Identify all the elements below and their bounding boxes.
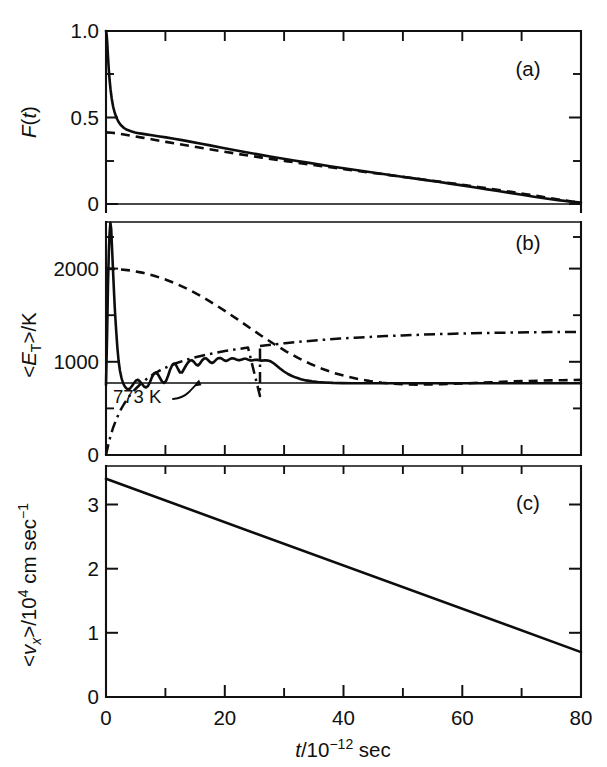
panel-a-frame xyxy=(106,31,581,212)
panel-c-x-ticks xyxy=(106,466,581,697)
svg-text:F(t): F(t) xyxy=(17,106,40,138)
panel-b-annotation-arrow xyxy=(173,382,198,399)
panel-c-ytick-label-2: 2 xyxy=(88,557,99,580)
panel-c-frame xyxy=(106,466,581,697)
panel-a-x-ticks xyxy=(165,31,521,41)
xtick-label-80: 80 xyxy=(570,706,593,729)
panel-b-annotation-label: 773 K xyxy=(113,386,162,407)
panel-c-y-ticks xyxy=(106,505,581,698)
panel-c-ytick-label-3: 3 xyxy=(88,493,99,516)
x-axis-title: t/10−12 sec xyxy=(295,736,391,761)
panel-b-frame xyxy=(106,222,581,455)
panel-c: 3 2 1 0 <vx>/104 cm sec−1 (c) xyxy=(15,466,581,708)
xtick-label-60: 60 xyxy=(451,706,474,729)
panel-c-tag: (c) xyxy=(516,491,540,514)
panel-b-curve-solid xyxy=(106,223,581,390)
multi-panel-plot: 1.0 0.5 0 F(t) (a) xyxy=(0,0,607,767)
panel-b-x-ticks xyxy=(165,445,521,455)
panel-a: 1.0 0.5 0 F(t) (a) xyxy=(17,19,581,215)
panel-b-curve-dashdot xyxy=(106,332,581,455)
panel-b-tag: (b) xyxy=(515,231,540,254)
panel-c-curve-solid xyxy=(106,479,581,652)
panel-a-ytick-label-0.5: 0.5 xyxy=(71,106,100,129)
panel-a-ytick-label-1: 1.0 xyxy=(71,19,100,42)
panel-b-ytick-label-2000: 2000 xyxy=(53,257,99,280)
svg-text:t/10−12 sec: t/10−12 sec xyxy=(295,736,391,761)
xtick-label-40: 40 xyxy=(332,706,355,729)
figure-container: 1.0 0.5 0 F(t) (a) xyxy=(0,0,607,767)
panel-a-ytick-label-0: 0 xyxy=(88,192,99,215)
panel-b-y-axis-title: <ET>/K xyxy=(17,312,44,378)
panel-a-tag: (a) xyxy=(515,57,540,80)
panel-a-curve-solid xyxy=(106,31,581,203)
x-axis-labels: 0 20 40 60 80 xyxy=(100,706,592,729)
svg-text:<ET>/K: <ET>/K xyxy=(17,312,44,378)
panel-c-ytick-label-1: 1 xyxy=(88,621,99,644)
panel-b: 2000 1000 0 <ET>/K (b) 773 K xyxy=(17,222,581,466)
panel-b-y-ticks xyxy=(106,237,581,455)
panel-b-ytick-label-1000: 1000 xyxy=(53,350,99,373)
xtick-label-0: 0 xyxy=(100,706,111,729)
panel-c-y-axis-title: <vx>/104 cm sec−1 xyxy=(15,503,44,667)
panel-b-ytick-label-0: 0 xyxy=(88,443,99,466)
panel-c-ytick-label-0: 0 xyxy=(88,685,99,708)
panel-a-y-axis-title: F(t) xyxy=(17,106,40,138)
panel-a-y-ticks xyxy=(106,31,581,204)
xtick-label-20: 20 xyxy=(213,706,236,729)
svg-text:<vx>/104 cm sec−1: <vx>/104 cm sec−1 xyxy=(15,503,44,667)
